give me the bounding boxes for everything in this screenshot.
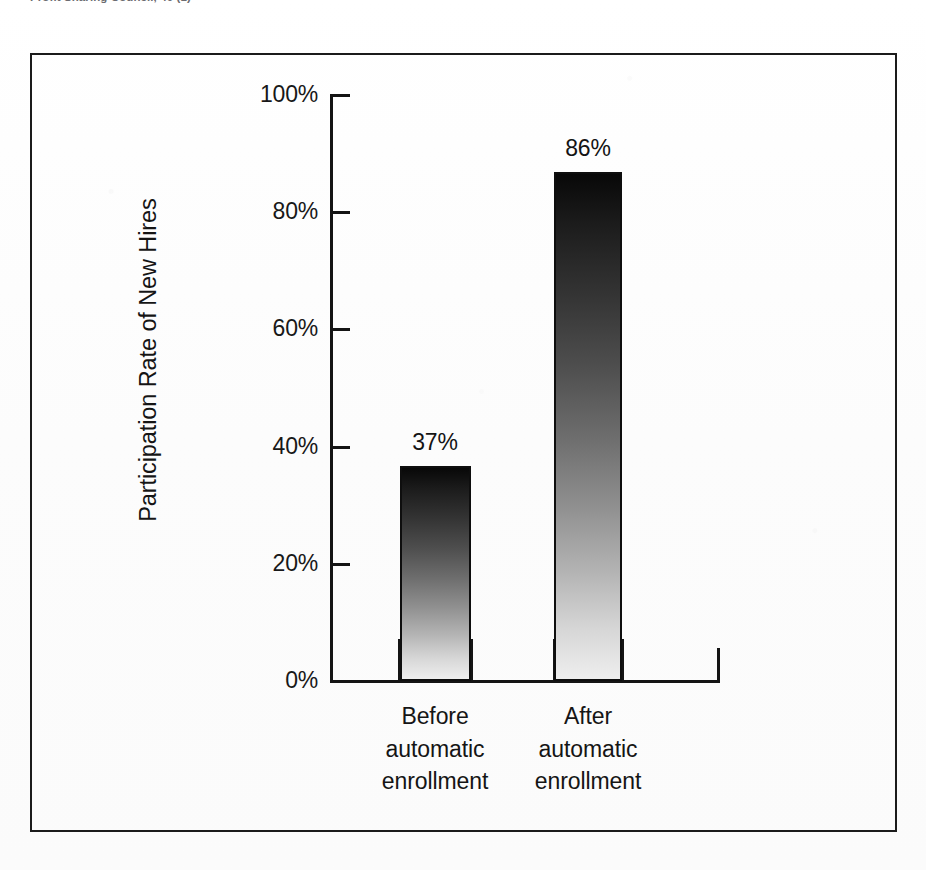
x-axis-end-tick <box>717 648 720 681</box>
y-tick-label-0: 0% <box>228 669 318 692</box>
y-tick-label-20: 20% <box>228 552 318 575</box>
y-tick-mark-60 <box>333 328 350 331</box>
bar-value-label-after: 86% <box>473 137 703 160</box>
bar-value-label-before: 37% <box>320 431 550 454</box>
x-category-label-after-line2: automatic <box>473 733 703 766</box>
figure-page: Profit Sharing Council, 40 (1) 100% 80% … <box>0 0 926 870</box>
x-category-label-after-line1: After <box>473 700 703 733</box>
bar-before-automatic-enrollment <box>400 466 471 681</box>
y-axis-tick-labels: 100% 80% 60% 40% 20% 0% <box>218 0 318 870</box>
running-head-text: Profit Sharing Council, 40 (1) <box>30 0 191 3</box>
y-axis-title: Participation Rate of New Hires <box>135 150 162 570</box>
y-tick-label-80: 80% <box>228 200 318 223</box>
x-category-label-after: After automatic enrollment <box>473 700 703 798</box>
bar-after-automatic-enrollment <box>554 172 622 681</box>
running-head-strip: Profit Sharing Council, 40 (1) <box>0 0 926 14</box>
y-tick-mark-80 <box>333 211 350 214</box>
y-tick-label-60: 60% <box>228 317 318 340</box>
y-tick-mark-100 <box>333 94 350 97</box>
y-tick-mark-20 <box>333 563 350 566</box>
y-axis-line <box>330 94 333 683</box>
x-category-label-after-line3: enrollment <box>473 765 703 798</box>
y-tick-label-40: 40% <box>228 435 318 458</box>
x-axis-line <box>330 680 720 683</box>
y-tick-label-100: 100% <box>228 83 318 106</box>
